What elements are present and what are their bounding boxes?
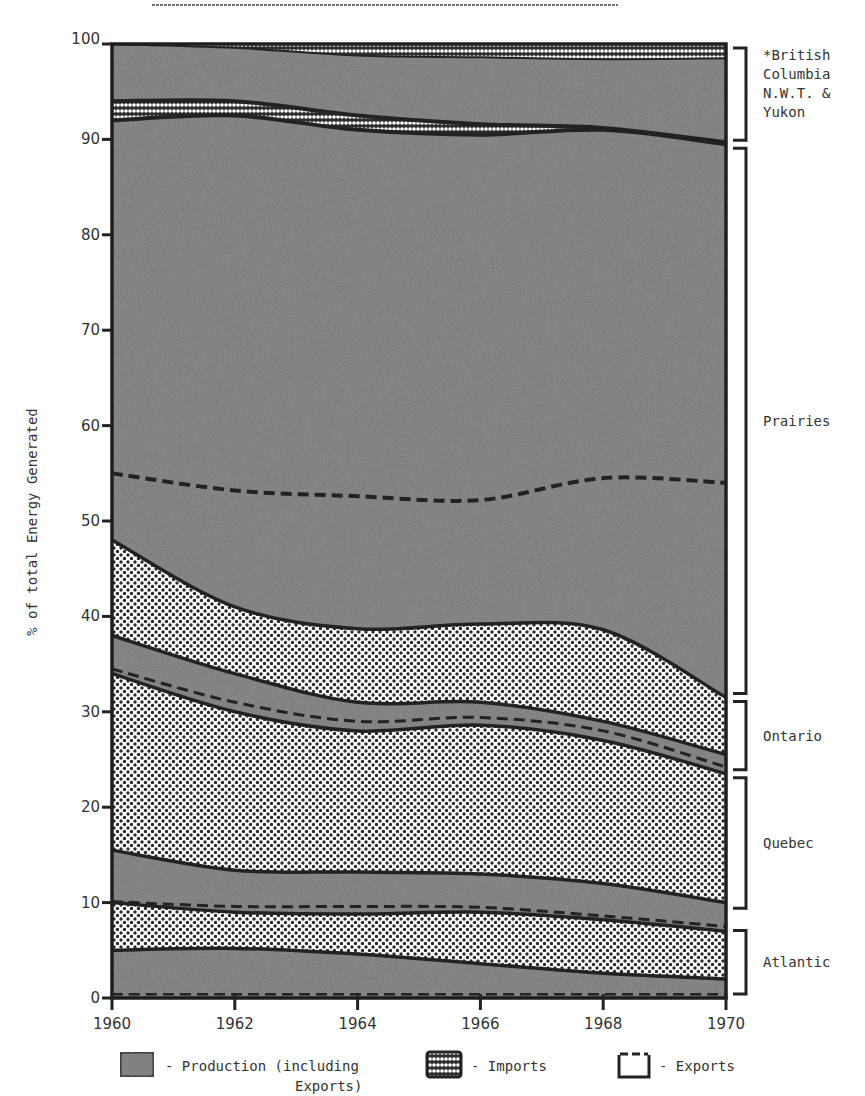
region-label: Atlantic	[763, 954, 830, 970]
x-tick-label: 1964	[339, 1015, 377, 1033]
y-tick-label: 0	[90, 989, 100, 1007]
y-tick-label: 90	[81, 130, 100, 148]
region-label: Prairies	[763, 413, 830, 429]
region-bracket	[733, 148, 746, 693]
x-tick-label: 1962	[216, 1015, 254, 1033]
region-brackets: *BritishColumbiaN.W.T. &YukonPrairiesOnt…	[733, 47, 831, 994]
region-label: Quebec	[763, 835, 814, 851]
x-tick-label: 1966	[461, 1015, 499, 1033]
region-bracket	[733, 930, 746, 994]
legend-production-label-line2: Exports)	[295, 1078, 362, 1094]
region-label: Yukon	[763, 104, 805, 120]
imports-swatch-icon	[427, 1052, 461, 1077]
x-tick-label: 1960	[93, 1015, 131, 1033]
legend-item-imports: - Imports	[427, 1052, 547, 1077]
stacked-area-chart: 1960-1970 010203040506070809010019601962…	[0, 0, 865, 1096]
y-tick-label: 10	[81, 894, 100, 912]
chart-title-fragment: 1960-1970	[394, 0, 470, 1]
legend-item-production: - Production (including Exports)	[120, 1052, 362, 1094]
y-axis-label: % of total Energy Generated	[24, 408, 40, 636]
region-label: N.W.T. &	[763, 85, 831, 101]
plot-area	[112, 44, 726, 998]
legend-exports-label: - Exports	[659, 1058, 735, 1074]
y-tick-label: 30	[81, 703, 100, 721]
exports-swatch-icon	[619, 1055, 649, 1077]
region-label: *British	[763, 47, 830, 63]
y-tick-label: 40	[81, 607, 100, 625]
legend-item-exports: - Exports	[619, 1054, 735, 1077]
region-bracket	[733, 48, 746, 140]
y-tick-label: 70	[81, 321, 100, 339]
region-bracket	[733, 701, 746, 769]
legend-imports-label: - Imports	[471, 1058, 547, 1074]
region-label: Ontario	[763, 728, 822, 744]
x-tick-label: 1968	[584, 1015, 622, 1033]
y-tick-label: 80	[81, 226, 100, 244]
y-tick-label: 100	[71, 30, 100, 48]
y-tick-label: 50	[81, 512, 100, 530]
y-tick-label: 20	[81, 798, 100, 816]
region-label: Columbia	[763, 66, 830, 82]
legend: - Production (including Exports) - Impor…	[120, 1052, 735, 1094]
legend-production-label: - Production (including	[165, 1058, 359, 1074]
production-swatch-icon	[120, 1052, 154, 1077]
y-tick-label: 60	[81, 417, 100, 435]
x-tick-label: 1970	[707, 1015, 745, 1033]
region-bracket	[733, 778, 746, 908]
